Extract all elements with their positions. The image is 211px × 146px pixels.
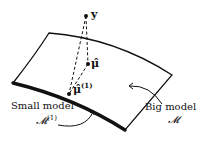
label-small-model: Small model <box>11 101 74 111</box>
label-small-model-symbol: 𝓜(1) <box>36 115 57 126</box>
small-model-symbol: 𝓜 <box>36 115 47 126</box>
label-mu-hat-1-base: μ̂ <box>73 83 81 96</box>
small-model-arrow <box>58 112 93 126</box>
label-mu-hat: μ̂ <box>91 58 99 69</box>
label-big-model: Big model <box>145 102 196 112</box>
small-model-superscript: (1) <box>47 114 57 122</box>
diagram-graphic <box>0 0 211 146</box>
label-big-model-symbol: 𝓜 <box>168 115 179 125</box>
label-y: y <box>91 9 97 20</box>
point-mu-hat-1 <box>67 92 71 96</box>
projection-diagram: y μ̂ μ̂(1) Small model 𝓜(1) Big model 𝓜 <box>0 0 211 146</box>
label-mu-hat-1-sup: (1) <box>81 81 93 90</box>
label-mu-hat-1: μ̂(1) <box>73 82 93 95</box>
point-mu-hat <box>86 62 90 66</box>
projection-y-to-muhat <box>86 16 88 64</box>
point-y <box>84 14 88 18</box>
